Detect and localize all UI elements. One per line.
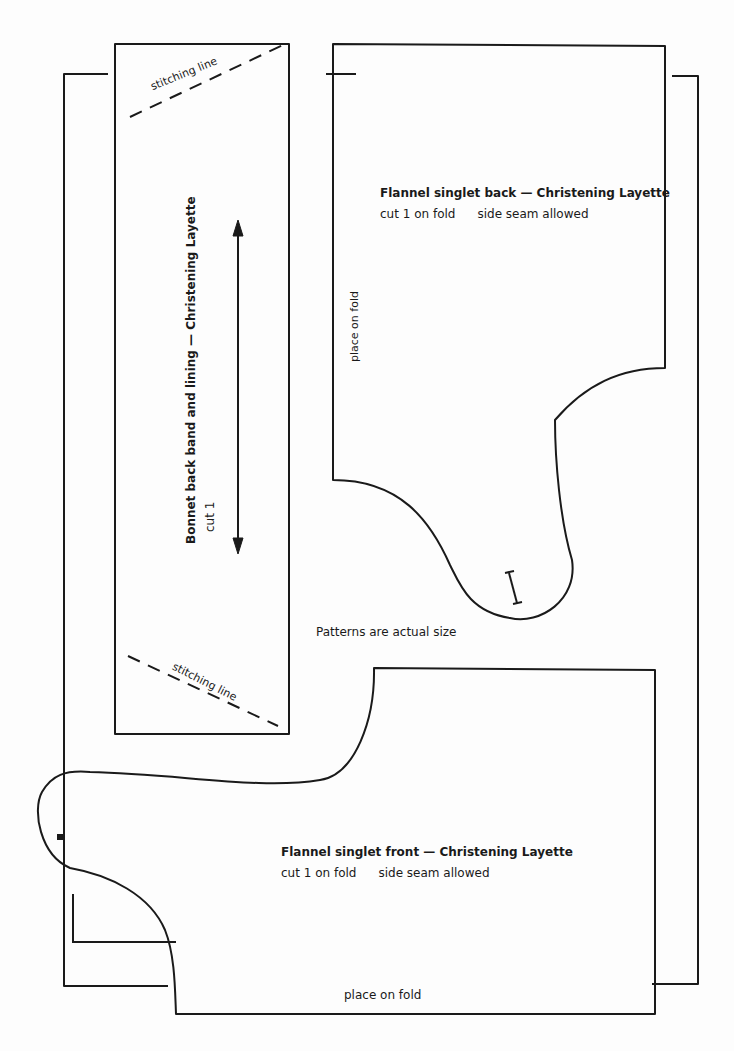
singlet-front-title: Flannel singlet front — Christening Laye…: [281, 845, 573, 859]
singlet-back-cut: cut 1 on fold: [380, 207, 455, 221]
singlet-front-outline: [38, 668, 655, 1014]
bonnet-band-title: Bonnet back band and lining — Christenin…: [184, 196, 198, 544]
page-note: Patterns are actual size: [316, 625, 457, 639]
singlet-back-fold-label: place on fold: [348, 291, 362, 362]
pattern-sheet: stitching line stitching line Bonnet bac…: [0, 0, 734, 1051]
outer-frame-bottom-left: [73, 894, 176, 942]
stitching-line-bottom: [128, 656, 278, 726]
pattern-outlines: [0, 0, 734, 1051]
singlet-front-seam: side seam allowed: [378, 866, 489, 880]
notch-marker-icon: [505, 571, 522, 604]
singlet-front-fold-label: place on fold: [344, 988, 421, 1002]
singlet-back-outline: [333, 44, 665, 619]
dot-marker-icon: [57, 834, 63, 840]
grainline-arrow-icon: [233, 220, 243, 554]
outer-frame-right: [652, 76, 698, 984]
bonnet-band-outline: [115, 44, 289, 734]
singlet-back-seam: side seam allowed: [477, 207, 588, 221]
bonnet-band-instruction: cut 1: [203, 502, 217, 532]
singlet-back-details: cut 1 on foldside seam allowed: [380, 207, 589, 221]
singlet-front-cut: cut 1 on fold: [281, 866, 356, 880]
singlet-back-title: Flannel singlet back — Christening Layet…: [380, 186, 670, 200]
singlet-front-details: cut 1 on foldside seam allowed: [281, 866, 490, 880]
